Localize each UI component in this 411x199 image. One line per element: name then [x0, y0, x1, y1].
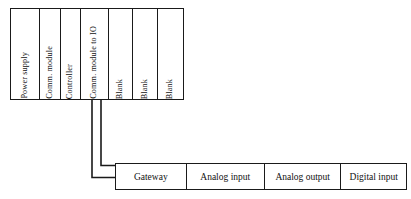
- rack-slot-label: Blank: [141, 74, 149, 99]
- io-module-analog-output: Analog output: [265, 164, 341, 189]
- rack-slot-label: Comm. module to IO: [90, 21, 98, 99]
- rack-slot-power-supply: Power supply: [11, 9, 40, 99]
- rack-slot-blank-1: Blank: [109, 9, 133, 99]
- io-module-label: Analog input: [200, 172, 250, 182]
- rack-slot-label: Blank: [116, 74, 124, 99]
- io-module-label: Digital input: [350, 172, 398, 182]
- diagram-canvas: Power supply Comm. module Controller Com…: [0, 0, 411, 199]
- io-module-analog-input: Analog input: [187, 164, 265, 189]
- rack-slot-blank-2: Blank: [133, 9, 158, 99]
- io-module-gateway: Gateway: [116, 164, 187, 189]
- rack-slot-label: Comm. module: [46, 41, 54, 99]
- controller-rack: Power supply Comm. module Controller Com…: [10, 8, 184, 100]
- rack-slot-comm-module: Comm. module: [40, 9, 61, 99]
- comm-to-gateway-upper-wire: [101, 100, 116, 166]
- io-module-bar: Gateway Analog input Analog output Digit…: [115, 163, 407, 190]
- rack-slot-label: Power supply: [21, 47, 29, 99]
- rack-slot-label: Controller: [66, 59, 74, 99]
- comm-to-gateway-lower-wire: [92, 100, 116, 178]
- rack-slot-label: Blank: [166, 74, 174, 99]
- rack-slot-comm-module-to-io: Comm. module to IO: [81, 9, 109, 99]
- io-module-label: Analog output: [275, 172, 330, 182]
- io-module-label: Gateway: [134, 172, 168, 182]
- io-module-digital-input: Digital input: [341, 164, 406, 189]
- rack-slot-controller: Controller: [61, 9, 81, 99]
- rack-slot-blank-3: Blank: [158, 9, 182, 99]
